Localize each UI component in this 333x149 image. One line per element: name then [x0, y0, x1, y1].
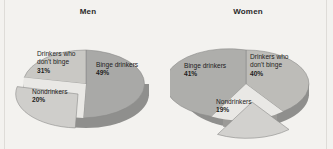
slice-label-nondrinkers-men: Nondrinkers 20%	[32, 88, 68, 105]
pie-stage-women: Binge drinkers 41% Drinkers who don't bi…	[170, 22, 326, 144]
pie-svg-men	[8, 22, 168, 144]
figure-canvas: Men	[0, 0, 333, 149]
slice-label-nondrinkers-women: Nondrinkers 19%	[216, 98, 252, 115]
page-left-rule	[4, 0, 5, 149]
chart-title-men: Men	[8, 7, 168, 16]
pie-svg-women	[170, 22, 326, 144]
page-right-rule	[326, 0, 327, 149]
pie-chart-women: Women	[170, 0, 326, 149]
slice-label-binge-women: Binge drinkers 41%	[184, 62, 226, 79]
slice-label-nonbinge-women: Drinkers who don't binge 40%	[250, 53, 288, 78]
slice-label-nonbinge-men: Drinkers who don't binge 31%	[37, 50, 75, 75]
chart-title-women: Women	[170, 7, 326, 16]
slice-label-binge-men: Binge drinkers 49%	[96, 61, 138, 78]
pie-chart-men: Men	[8, 0, 168, 149]
pie-stage-men: Drinkers who don't binge 31% Binge drink…	[8, 22, 168, 144]
